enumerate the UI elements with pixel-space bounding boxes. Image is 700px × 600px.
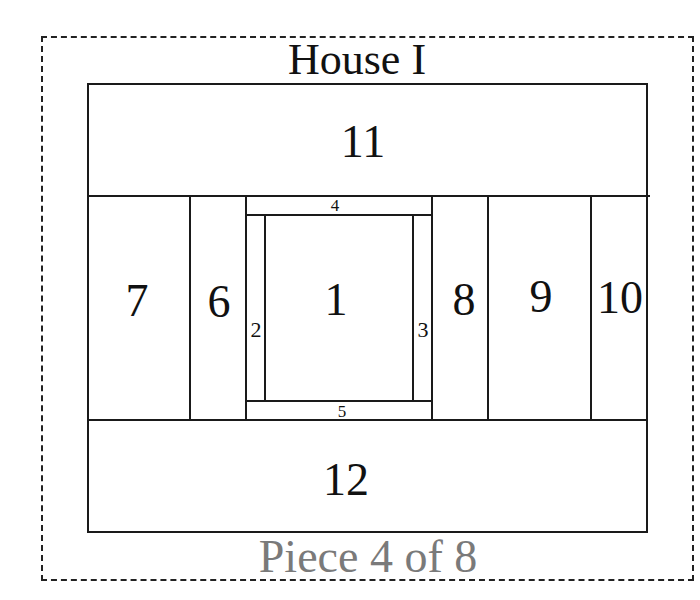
divider-2-1	[264, 215, 266, 402]
divider-7-6	[189, 196, 191, 421]
piece-5-label: 5	[338, 403, 347, 420]
divider-center-8	[431, 196, 433, 421]
piece-12-label: 12	[323, 457, 369, 503]
divider-8-9	[487, 196, 489, 421]
row-divider-top	[87, 195, 650, 197]
piece-10-label: 10	[597, 275, 643, 321]
piece-6-label: 6	[208, 279, 231, 325]
piece-3-label: 3	[418, 319, 429, 341]
divider-6-center	[245, 196, 247, 421]
piece-8-label: 8	[453, 277, 476, 323]
piece-11-label: 11	[341, 119, 385, 165]
piece-count-footer: Piece 4 of 8	[259, 534, 477, 580]
piece-4-label: 4	[331, 197, 340, 214]
row-divider-bottom	[87, 419, 648, 421]
divider-9-10	[590, 196, 592, 421]
pattern-title: House I	[288, 38, 426, 82]
piece-1-label: 1	[325, 277, 348, 323]
piece-9-label: 9	[530, 274, 553, 320]
piece-2-label: 2	[251, 319, 262, 341]
piece-7-label: 7	[126, 278, 149, 324]
divider-1-3	[412, 215, 414, 402]
